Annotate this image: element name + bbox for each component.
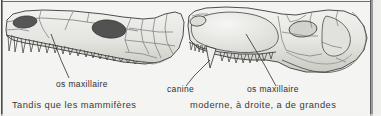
page-bottom-clip	[0, 114, 381, 116]
label-right-maxilla: os maxillaire	[247, 85, 299, 94]
leader-line-canine	[186, 60, 210, 86]
label-canine: canine	[167, 85, 194, 94]
caption-right-line1: moderne, à droite, a de grandes	[190, 101, 336, 110]
left-skull-group	[6, 10, 184, 78]
page-margin-right	[373, 0, 381, 116]
right-canine-tooth	[206, 46, 216, 68]
figure-page: os maxillaire canine os maxillaire Tandi…	[0, 0, 381, 116]
right-skull-group	[186, 7, 367, 86]
caption-left-line1: Tandis que les mammifères	[12, 101, 136, 110]
label-left-maxilla: os maxillaire	[56, 80, 108, 89]
